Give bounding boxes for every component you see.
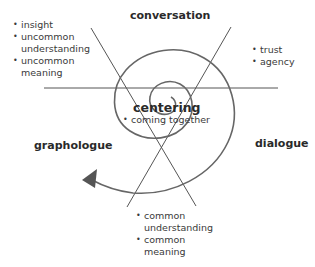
spiral-arrowhead-icon — [82, 169, 97, 188]
list-item: common meaning — [136, 234, 204, 258]
list-item: common understanding — [136, 210, 224, 234]
center-title: centering — [133, 100, 201, 115]
quadrant-label-dialogue: dialogue — [255, 137, 309, 150]
top-left-list: insight uncommon understanding uncommon … — [13, 19, 108, 79]
center-bullet-list: coming together — [123, 114, 210, 126]
quadrant-label-graphologue: graphologue — [34, 139, 112, 152]
list-item: insight — [13, 19, 108, 31]
list-item: uncommon understanding — [13, 31, 101, 55]
list-item: trust — [252, 44, 295, 56]
center-bullet-item: coming together — [123, 114, 210, 126]
top-right-list: trust agency — [252, 44, 295, 68]
bottom-list: common understanding common meaning — [136, 210, 226, 258]
list-item: agency — [252, 56, 295, 68]
diagram-canvas: conversation graphologue dialogue center… — [0, 0, 315, 267]
quadrant-label-conversation: conversation — [130, 9, 210, 22]
list-item: uncommon meaning — [13, 55, 91, 79]
